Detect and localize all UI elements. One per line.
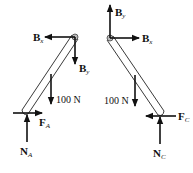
force-bx-left: Bx (33, 31, 75, 45)
free-body-diagram: Bx By 100 N FA NA By (0, 0, 193, 173)
force-weight-right: 100 N (104, 75, 135, 106)
svg-text:By: By (115, 6, 126, 20)
left-member: Bx By 100 N FA NA (13, 31, 90, 159)
svg-text:100 N: 100 N (56, 94, 81, 105)
force-fc: FC (146, 110, 190, 124)
svg-text:FA: FA (39, 116, 51, 130)
force-by-right: By (110, 5, 126, 38)
force-bx-right: Bx (110, 32, 153, 46)
svg-text:NC: NC (153, 147, 166, 161)
force-fa: FA (13, 113, 51, 130)
svg-text:Bx: Bx (33, 31, 44, 45)
force-na: NA (20, 115, 33, 159)
force-by-left: By (75, 37, 90, 76)
svg-text:Bx: Bx (142, 32, 153, 46)
svg-text:By: By (79, 62, 90, 76)
force-nc: NC (153, 117, 166, 161)
force-weight-left: 100 N (51, 74, 81, 105)
right-member: By Bx 100 N FC NC (104, 5, 190, 161)
svg-text:FC: FC (178, 110, 190, 124)
svg-text:NA: NA (20, 145, 33, 159)
svg-text:100 N: 100 N (104, 95, 129, 106)
